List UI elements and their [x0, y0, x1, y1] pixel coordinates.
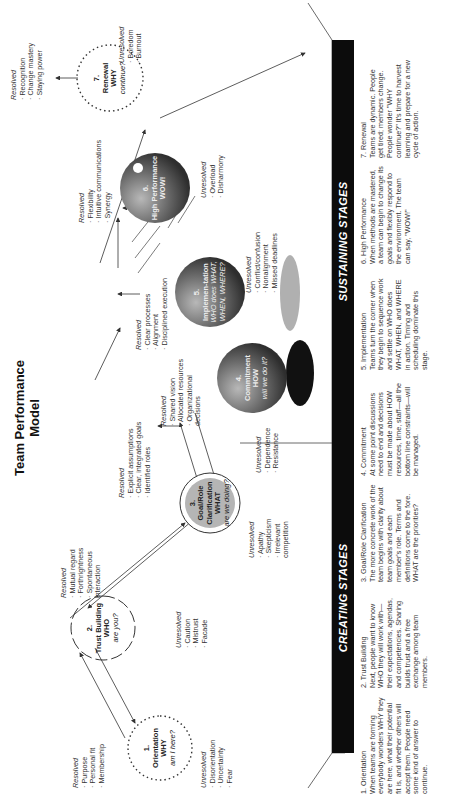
page-title: Team Performance Model [12, 338, 42, 498]
stage-3-goal-bubble: 3. Goal/Role Clarification WHAT are we d… [183, 476, 237, 530]
stage-2-trust-bubble: 2. Trust Building WHO are you? [71, 596, 135, 660]
sustaining-stages-label: SUSTAINING STAGES [337, 182, 349, 302]
stage-6-resolved: Resolved · Flexibility · Intuitive commu… [78, 123, 112, 223]
stage-question: am I here? [169, 730, 178, 766]
creating-stages-bar: CREATING STAGES [332, 443, 354, 753]
stage-7-unresolved: Unresolved · Boredom · Burnout [118, 8, 144, 63]
stage-1-resolved: Resolved · Purpose · Personal fit · Memb… [72, 718, 106, 788]
stage-4-commitment-bubble: 4. Commitment HOW will we do it? [217, 343, 287, 413]
sustaining-stages-bar: SUSTAINING STAGES [332, 40, 354, 443]
unresolved-item: · Irrelevant competition [274, 488, 291, 558]
stage-3-unresolved: Unresolved · Apathy · Skepticism · Irrel… [248, 488, 291, 558]
resolved-item: · Organizational decisions [186, 351, 203, 426]
description-trust-building: 2. Trust Building Next, people want to k… [360, 590, 430, 688]
stage-question: are we doing? [223, 479, 232, 526]
team-performance-diagram: Team Performance Model 1. Orientation WH… [0, 0, 475, 798]
stage-1-unresolved: Unresolved · Disorientation · Uncertaint… [200, 718, 234, 788]
description-text: Teams are dynamic. People get tired; mem… [368, 60, 421, 158]
description-implementation: 5. Implementation Teams turn the corner … [360, 272, 430, 370]
stage-question: will we do it? [261, 357, 270, 400]
description-renewal: 7. Renewal Teams are dynamic. People get… [360, 58, 421, 158]
title-line-1: Team Performance [12, 338, 27, 498]
title-line-2: Model [27, 338, 42, 498]
unresolved-item: · Burnout [135, 8, 144, 63]
stage-6-high-performance-bubble: 6. High Performance WOW! [120, 153, 190, 223]
unresolved-item: · Fear [226, 718, 235, 788]
stage-6-unresolved: Unresolved · Overload · Disharmony [200, 133, 226, 198]
creating-stages-label: CREATING STAGES [337, 544, 349, 653]
unresolved-item: · Facade [201, 588, 210, 648]
description-orientation: 1. Orientation When teams are forming ev… [360, 696, 430, 794]
description-text: At some point discussions need to end an… [368, 383, 421, 476]
resolved-item: · Spontaneous interaction [86, 523, 103, 598]
description-text: When teams are forming everybody wonders… [368, 697, 429, 794]
stage-2-resolved: Resolved · Mutual regard · Forthrightnes… [60, 523, 103, 598]
stage-2-unresolved: Unresolved · Caution · Mistrust · Facade [175, 588, 209, 648]
stage-4-unresolved: Unresolved · Dependence · Resistance [255, 408, 281, 473]
description-goal-role: 3. Goal/Role Clarification The more conc… [360, 484, 421, 582]
description-commitment: 4. Commitment At some point discussions … [360, 378, 421, 476]
stage-7-resolved: Resolved · Recognition · Change mastery … [10, 25, 44, 100]
resolved-item: · Staying power [36, 25, 45, 100]
stage-question: continue? [119, 62, 128, 95]
stage-3-resolved: Resolved · Explicit assumptions · Clear,… [118, 416, 152, 498]
stage-4-resolved: Resolved · Shared vision · Allocated res… [160, 351, 203, 426]
description-text: Next, people want to know WHO they will … [368, 598, 429, 688]
stage-1-orientation-bubble: 1. Orientation WHY am I here? [128, 716, 192, 780]
stage-question: are you? [112, 613, 121, 642]
stage-5-resolved: Resolved · Clear processes · Alignment ·… [135, 275, 169, 350]
stage-key: WOW! [159, 177, 168, 200]
unresolved-item: · Disharmony [217, 133, 226, 198]
resolved-item: · Disciplined execution [161, 275, 170, 350]
stage-name: Goal/Role Clarification [197, 476, 214, 530]
stage-5-implementation-bubble: 5. Implemen-tation WHO does WHAT, WHEN, … [175, 257, 245, 327]
resolved-item: · Synergy [104, 123, 113, 223]
description-text: When methods are mastered, a team can be… [368, 166, 412, 264]
description-text: Teams turn the corner when they begin to… [368, 278, 429, 370]
resolved-item: · Identified roles [144, 416, 153, 498]
description-high-performance: 6. High Performance When methods are mas… [360, 166, 412, 264]
description-text: The more concrete work of the team begin… [368, 485, 421, 582]
unresolved-item: · Resistance [272, 408, 281, 473]
stage-key: WHO does WHAT, WHEN, WHERE? [210, 257, 227, 327]
unresolved-item: · Missed deadlines [271, 213, 280, 293]
stage-5-unresolved: Unresolved · Conflict/confusion · Nonali… [245, 213, 279, 293]
resolved-item: · Membership [98, 718, 107, 788]
